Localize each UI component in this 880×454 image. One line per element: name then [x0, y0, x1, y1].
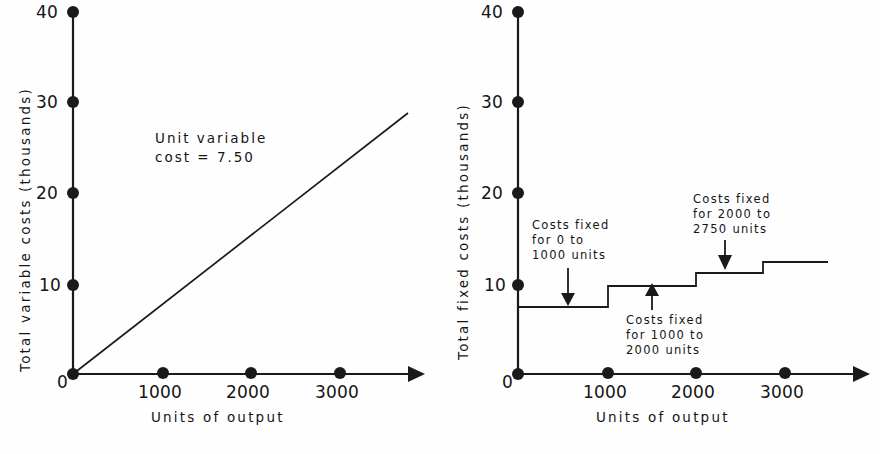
left-y-tick-label-10: 10 — [39, 275, 61, 295]
right-y-tick-dot-10 — [512, 279, 524, 291]
chart-total-variable-costs: Total variable costs (thousands) 40 30 2… — [0, 0, 440, 454]
figure-canvas: Total variable costs (thousands) 40 30 2… — [0, 0, 880, 454]
left-x-axis-arrowhead — [408, 366, 425, 382]
right-y-tick-label-0: 0 — [502, 372, 513, 392]
right-origin-dot — [512, 368, 524, 380]
step-note-0-1000-line2: for 0 to — [532, 233, 584, 249]
right-y-tick-dot-20 — [512, 187, 524, 199]
left-y-tick-label-30: 30 — [36, 92, 58, 112]
left-x-tick-dot-3000 — [334, 367, 346, 379]
step-note-0-1000-line1: Costs fixed — [532, 218, 610, 234]
left-x-tick-label-3000: 3000 — [315, 382, 359, 402]
unit-variable-cost-note-line1: Unit variable — [155, 129, 267, 149]
right-x-tick-dot-2000 — [690, 367, 702, 379]
right-x-axis-title: Units of output — [596, 410, 730, 426]
right-y-tick-dot-30 — [512, 96, 524, 108]
right-x-tick-label-2000: 2000 — [671, 382, 715, 402]
left-x-tick-dot-1000 — [157, 367, 169, 379]
left-x-tick-label-2000: 2000 — [226, 382, 270, 402]
left-y-axis-title: Total variable costs (thousands) — [18, 87, 34, 372]
left-x-tick-label-1000: 1000 — [138, 382, 182, 402]
step-note-1000-2000-line3: 2000 units — [626, 343, 700, 359]
left-y-tick-dot-30 — [67, 96, 79, 108]
left-y-tick-label-0: 0 — [57, 372, 68, 392]
right-fixed-cost-step-line — [518, 262, 828, 307]
step-note-1000-2000-arrow — [645, 283, 659, 310]
step-note-1000-2000-line1: Costs fixed — [626, 313, 704, 329]
right-x-axis-arrowhead — [853, 366, 870, 382]
step-note-0-1000-line3: 1000 units — [532, 248, 606, 264]
left-y-tick-label-20: 20 — [36, 183, 58, 203]
right-x-tick-label-3000: 3000 — [760, 382, 804, 402]
right-x-tick-label-1000: 1000 — [583, 382, 627, 402]
right-y-axis-title: Total fixed costs (thousands) — [456, 103, 472, 360]
right-y-tick-label-40: 40 — [481, 2, 503, 22]
right-y-tick-label-20: 20 — [481, 183, 503, 203]
chart-total-fixed-costs: Total fixed costs (thousands) 40 30 20 1… — [440, 0, 880, 454]
step-note-0-1000-arrow — [561, 268, 575, 306]
left-y-tick-dot-20 — [67, 187, 79, 199]
right-x-tick-dot-3000 — [779, 367, 791, 379]
step-note-2000-2750-line3: 2750 units — [693, 222, 767, 238]
left-x-tick-dot-2000 — [245, 367, 257, 379]
left-y-tick-dot-10 — [67, 279, 79, 291]
right-y-tick-dot-40 — [512, 6, 524, 18]
step-note-2000-2750-line1: Costs fixed — [693, 192, 771, 208]
unit-variable-cost-note-line2: cost = 7.50 — [155, 148, 255, 168]
step-note-1000-2000-line2: for 1000 to — [626, 328, 704, 344]
right-y-tick-label-10: 10 — [484, 275, 506, 295]
left-y-tick-dot-40 — [67, 6, 79, 18]
step-note-2000-2750-line2: for 2000 to — [693, 207, 771, 223]
right-x-tick-dot-1000 — [602, 367, 614, 379]
left-x-axis-title: Units of output — [151, 410, 285, 426]
step-note-2000-2750-arrow — [718, 240, 732, 270]
left-y-tick-label-40: 40 — [36, 2, 58, 22]
right-y-tick-label-30: 30 — [481, 92, 503, 112]
